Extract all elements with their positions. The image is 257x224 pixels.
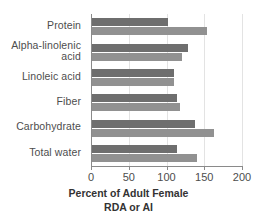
x-axis-tick-label: 50 <box>109 171 149 183</box>
bar <box>92 18 168 26</box>
x-axis-tick <box>129 166 130 170</box>
category-label: Alpha-linolenic acid <box>0 40 81 63</box>
bar <box>92 120 195 128</box>
gridline <box>129 14 130 166</box>
bar <box>92 78 174 86</box>
x-axis-title-line1: Percent of Adult Female <box>69 187 189 199</box>
category-label: Protein <box>0 20 81 32</box>
bar-chart-figure: ProteinAlpha-linolenic acidLinoleic acid… <box>0 0 257 224</box>
y-axis-line <box>91 14 92 166</box>
x-axis-tick <box>91 166 92 170</box>
bar <box>92 27 207 35</box>
x-axis-tick <box>204 166 205 170</box>
x-axis-tick-label: 150 <box>184 171 224 183</box>
x-axis-tick-label: 100 <box>147 171 187 183</box>
bar <box>92 154 197 162</box>
bar <box>92 103 180 111</box>
x-axis-tick <box>167 166 168 170</box>
x-axis-tick-label: 200 <box>222 171 257 183</box>
x-axis-title: Percent of Adult Female RDA or AI <box>0 186 257 214</box>
category-label: Fiber <box>0 96 81 108</box>
category-label: Total water <box>0 147 81 159</box>
bar <box>92 129 214 137</box>
gridline <box>167 14 168 166</box>
category-label: Carbohydrate <box>0 121 81 133</box>
x-axis-title-line2: RDA or AI <box>0 200 257 214</box>
x-axis-tick-label: 0 <box>71 171 111 183</box>
gridline <box>204 14 205 166</box>
category-label: Linoleic acid <box>0 71 81 83</box>
bar <box>92 44 188 52</box>
category-axis-labels: ProteinAlpha-linolenic acidLinoleic acid… <box>0 14 86 166</box>
bar <box>92 69 174 77</box>
bar <box>92 53 182 61</box>
gridline <box>242 14 243 166</box>
bar <box>92 145 177 153</box>
plot-area: 050100150200 <box>91 14 242 166</box>
bar <box>92 94 177 102</box>
x-axis-tick <box>242 166 243 170</box>
